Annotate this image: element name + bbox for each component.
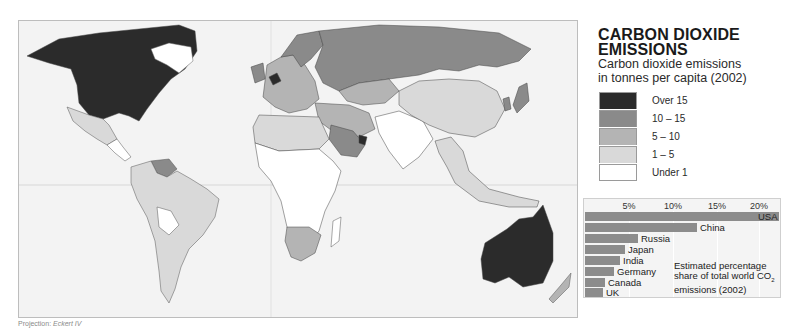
legend-row-under-1: Under 1	[599, 163, 688, 181]
bar-canada	[585, 278, 605, 287]
x-tick-label: 10%	[664, 201, 682, 211]
bar-label-uk: UK	[606, 288, 619, 298]
region-north-america	[27, 25, 197, 121]
legend-subtitle: Carbon dioxide emissions in tonnes per c…	[598, 57, 747, 85]
chart-caption-line2: share of total world CO2	[674, 271, 775, 285]
legend-title-line1: CARBON DIOXIDE	[598, 27, 740, 42]
legend-title: CARBON DIOXIDE EMISSIONS	[598, 27, 740, 57]
chart-caption: Estimated percentage share of total worl…	[674, 261, 775, 295]
world-map-svg	[19, 21, 578, 318]
legend-row-over-15: Over 15	[599, 91, 688, 109]
bar-germany	[585, 267, 614, 276]
region-new-zealand	[549, 273, 571, 303]
legend-swatch	[599, 146, 637, 163]
bar-russia	[585, 234, 638, 243]
legend-swatch	[599, 110, 637, 127]
region-southeast-asia	[435, 137, 539, 207]
projection-caption: Projection: Eckert IV	[18, 320, 81, 327]
bar-label-japan: Japan	[628, 245, 654, 255]
legend-subtitle-line1: Carbon dioxide emissions	[598, 57, 747, 71]
bar-japan	[585, 245, 625, 254]
bar-usa	[585, 212, 779, 221]
legend-row-1-5: 1 – 5	[599, 145, 688, 163]
bar-china	[585, 223, 697, 232]
bar-label-usa: USA	[758, 212, 778, 222]
chart-caption-line3: emissions (2002)	[674, 285, 775, 295]
emissions-share-chart: 5% 10% 15% 20% USA China Russia Japan In…	[583, 198, 781, 298]
projection-label: Projection:	[18, 320, 51, 327]
x-tick-label: 20%	[750, 201, 768, 211]
bar-india	[585, 256, 620, 265]
legend-subtitle-line2: in tonnes per capita (2002)	[598, 71, 747, 85]
region-gulf-states	[359, 135, 367, 145]
legend-swatch	[599, 92, 637, 109]
region-madagascar	[331, 217, 341, 247]
bar-label-russia: Russia	[641, 234, 670, 244]
region-europe-west	[263, 55, 319, 113]
bar-uk	[585, 288, 603, 297]
x-tick-label: 5%	[622, 201, 635, 211]
projection-name: Eckert IV	[53, 320, 81, 327]
legend-label: Under 1	[652, 167, 688, 178]
bar-label-india: India	[623, 256, 644, 266]
region-southern-africa	[285, 227, 321, 261]
legend-row-10-15: 10 – 15	[599, 109, 688, 127]
chart-caption-subscript: 2	[771, 277, 774, 283]
region-australia	[481, 205, 553, 287]
legend-label: 5 – 10	[652, 131, 680, 142]
legend-row-5-10: 5 – 10	[599, 127, 688, 145]
region-south-america	[131, 161, 219, 303]
chart-caption-line2-text: share of total world CO	[674, 270, 771, 281]
legend-label: 1 – 5	[652, 149, 674, 160]
legend-swatch	[599, 128, 637, 145]
map-legend: Over 15 10 – 15 5 – 10 1 – 5 Under 1	[599, 91, 688, 181]
region-north-africa	[253, 115, 329, 151]
legend-swatch	[599, 164, 637, 181]
world-map	[18, 20, 578, 318]
legend-label: 10 – 15	[652, 113, 685, 124]
legend-title-line2: EMISSIONS	[598, 42, 740, 57]
bar-label-china: China	[700, 223, 725, 233]
region-japan	[513, 83, 529, 113]
x-tick-label: 15%	[708, 201, 726, 211]
bar-label-germany: Germany	[617, 267, 656, 277]
region-uk	[251, 63, 265, 83]
legend-label: Over 15	[652, 95, 688, 106]
